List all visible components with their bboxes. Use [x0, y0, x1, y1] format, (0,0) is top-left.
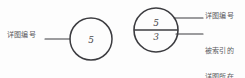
sheet-number-bottom: 3: [153, 32, 159, 42]
label-detail-number-right: 详图编号: [205, 12, 234, 21]
diagram-canvas: 5 5 3 详图编号 详图编号 被索引的 详图所在 的图纸编 号: [0, 0, 245, 78]
label-sheet-number-right: 被索引的 详图所在 的图纸编 号: [205, 30, 234, 78]
label-detail-number-left: 详图编号: [7, 31, 36, 40]
detail-number-left: 5: [88, 35, 94, 45]
label-line-2: 详图所在: [205, 73, 234, 78]
detail-number-top: 5: [153, 18, 159, 28]
single-circle-symbol: 5: [45, 18, 112, 60]
divided-circle-symbol: 5 3: [134, 8, 203, 52]
label-line-1: 被索引的: [205, 47, 234, 56]
